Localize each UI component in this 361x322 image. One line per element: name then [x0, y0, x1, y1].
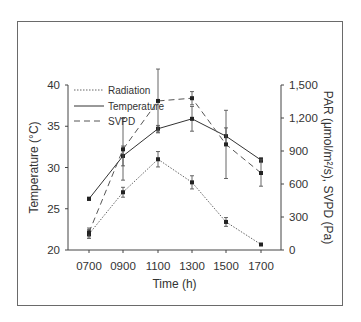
- chart: 202530354003006009001,2001,5000700090011…: [0, 0, 361, 322]
- data-marker: [87, 230, 91, 234]
- right-axis-title: PAR (μmol/m²/s), SVPD (Pa): [321, 91, 335, 244]
- left-tick-label: 30: [47, 162, 60, 174]
- left-tick-label: 25: [47, 203, 60, 215]
- x-tick-label: 0700: [76, 260, 102, 272]
- right-tick-label: 900: [289, 145, 308, 157]
- x-tick-label: 1700: [248, 260, 274, 272]
- right-tick-label: 600: [289, 178, 308, 190]
- data-marker: [190, 96, 194, 100]
- legend-label: Radiation: [108, 85, 150, 96]
- left-tick-label: 20: [47, 244, 60, 256]
- data-marker: [190, 180, 194, 184]
- series-line-temperature: [89, 119, 261, 199]
- right-tick-label: 0: [289, 244, 295, 256]
- x-tick-label: 1100: [146, 260, 171, 272]
- data-marker: [87, 197, 91, 201]
- data-marker: [190, 117, 194, 121]
- x-tick-label: 1500: [213, 260, 239, 272]
- data-marker: [224, 142, 228, 146]
- legend-label: Temperature: [108, 101, 165, 112]
- legend-label: SVPD: [108, 116, 135, 127]
- right-tick-label: 1,200: [289, 112, 318, 124]
- right-tick-label: 300: [289, 211, 308, 223]
- x-tick-label: 1300: [179, 260, 205, 272]
- data-marker: [224, 220, 228, 224]
- series-line-radiation: [89, 159, 261, 244]
- data-marker: [121, 147, 125, 151]
- x-axis-title: Time (h): [152, 277, 196, 291]
- left-tick-label: 35: [47, 120, 60, 132]
- x-tick-label: 0900: [110, 260, 136, 272]
- right-tick-label: 1,500: [289, 79, 318, 91]
- left-tick-label: 40: [47, 79, 60, 91]
- left-axis-title: Temperature (°C): [27, 121, 41, 213]
- data-marker: [156, 157, 160, 161]
- data-marker: [121, 190, 125, 194]
- data-marker: [259, 171, 263, 175]
- data-marker: [259, 243, 263, 247]
